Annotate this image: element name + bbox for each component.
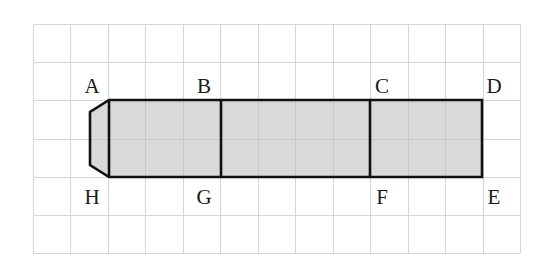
grid-diagram xyxy=(0,0,542,264)
vertex-label-a: A xyxy=(84,76,99,97)
vertex-label-c: C xyxy=(375,76,389,97)
shaded-strip-shape xyxy=(90,100,482,177)
vertex-label-g: G xyxy=(196,187,211,208)
vertex-label-h: H xyxy=(84,187,99,208)
vertex-label-f: F xyxy=(376,187,388,208)
vertex-label-e: E xyxy=(488,187,501,208)
vertex-label-d: D xyxy=(486,76,501,97)
vertex-label-b: B xyxy=(197,76,211,97)
shape-fill xyxy=(90,100,482,177)
